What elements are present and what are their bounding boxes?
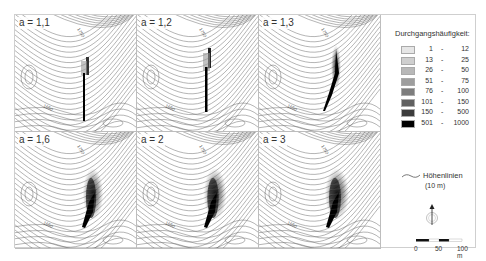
scale-tick-50: 50 (435, 245, 442, 252)
contour-map: 17501650 (137, 132, 259, 249)
range-dash: - (441, 45, 443, 53)
map-panel: 17501650a = 2 (137, 132, 259, 249)
map-panel: 17501650a = 3 (259, 132, 381, 249)
legend-class-row: 26-50 (401, 66, 475, 74)
map-panel: 17501650a = 1,1 (15, 15, 137, 132)
map-parameter-label: a = 3 (262, 134, 287, 146)
range-dash: - (441, 56, 443, 64)
range-from: 101 (421, 98, 433, 106)
legend-swatch (401, 120, 415, 128)
contour-map: 17501650 (137, 15, 259, 132)
legend-swatch (401, 109, 415, 117)
range-from: 1 (429, 45, 433, 53)
svg-text:1750: 1750 (320, 27, 330, 39)
legend-class-row: 1-12 (401, 45, 475, 53)
range-to: 12 (461, 45, 469, 53)
legend-swatch (401, 99, 415, 107)
range-from: 51 (425, 77, 433, 85)
range-to: 100 (457, 87, 469, 95)
scale-tick-100: 100 m (457, 245, 473, 259)
svg-text:1750: 1750 (198, 27, 208, 39)
legend-swatch (401, 88, 415, 96)
legend-title: Durchgangshäufigkeit: (395, 29, 470, 38)
legend-class-row: 76-100 (401, 87, 475, 95)
legend-class-row: 150-500 (401, 108, 475, 116)
legend-swatch (401, 78, 415, 86)
contour-map: 17501650 (15, 132, 137, 249)
range-to: 50 (461, 66, 469, 74)
contour-map: 17501650 (15, 15, 137, 132)
range-from: 13 (425, 56, 433, 64)
contour-interval: (10 m) (425, 181, 445, 190)
range-dash: - (441, 108, 443, 116)
map-parameter-label: a = 1,3 (262, 17, 295, 29)
range-from: 26 (425, 66, 433, 74)
scale-tick-0: 0 (414, 245, 418, 252)
north-arrow-icon (424, 203, 440, 229)
contour-legend-label: Höhenlinien (423, 171, 463, 180)
legend-class-row: 501-1000 (401, 119, 475, 127)
range-from: 150 (421, 108, 433, 116)
legend-swatch (401, 67, 415, 75)
legend-class-row: 101-150 (401, 98, 475, 106)
range-dash: - (441, 77, 443, 85)
range-dash: - (441, 66, 443, 74)
contour-map: 17501650 (259, 15, 381, 132)
range-dash: - (441, 87, 443, 95)
svg-text:1750: 1750 (76, 144, 86, 156)
range-dash: - (441, 98, 443, 106)
legend-class-row: 13-25 (401, 56, 475, 64)
map-panel: 17501650a = 1,6 (15, 132, 137, 249)
range-to: 75 (461, 77, 469, 85)
map-panel: 17501650a = 1,3 (259, 15, 381, 132)
contour-line-icon (401, 172, 421, 180)
map-panel: 17501650a = 1,2 (137, 15, 259, 132)
legend-class-row: 51-75 (401, 77, 475, 85)
scale-bar: 0 50 100 m (413, 237, 473, 251)
legend-swatch (401, 46, 415, 54)
svg-text:1750: 1750 (198, 144, 208, 156)
legend-panel: Durchgangshäufigkeit: 1-1213-2526-5051-7… (391, 15, 477, 249)
legend-swatch (401, 57, 415, 65)
map-parameter-label: a = 1,6 (18, 134, 51, 146)
svg-text:1750: 1750 (320, 144, 330, 156)
range-dash: - (441, 119, 443, 127)
range-to: 1000 (453, 119, 469, 127)
contour-map: 17501650 (259, 132, 381, 249)
figure-frame: 17501650a = 1,117501650a = 1,217501650a … (14, 14, 476, 248)
map-parameter-label: a = 2 (140, 134, 165, 146)
range-to: 500 (457, 108, 469, 116)
range-to: 150 (457, 98, 469, 106)
map-parameter-label: a = 1,2 (140, 17, 173, 29)
map-parameter-label: a = 1,1 (18, 17, 51, 29)
scale-bar-graphic (413, 237, 473, 243)
range-from: 501 (421, 119, 433, 127)
range-to: 25 (461, 56, 469, 64)
range-from: 76 (425, 87, 433, 95)
svg-text:1750: 1750 (76, 27, 86, 39)
